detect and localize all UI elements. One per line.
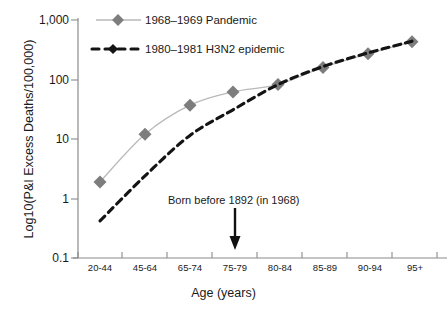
y-axis-ticks	[71, 20, 78, 258]
y-tick-label-100: 100	[19, 73, 69, 87]
legend-marker-pandemic	[96, 14, 141, 26]
legend-marker-h3n2	[92, 44, 141, 54]
series-pandemic-markers	[93, 35, 418, 188]
y-tick-label-0.1: 0.1	[19, 251, 69, 265]
legend-label-pandemic: 1968–1969 Pandemic	[145, 14, 257, 26]
y-tick-label-1: 1	[19, 192, 69, 206]
y-tick-label-1000: 1,000	[19, 13, 69, 27]
x-axis-ticks	[78, 252, 437, 258]
annotation-label: Born before 1892 (in 1968)	[168, 194, 299, 206]
annotation-arrow	[230, 208, 241, 250]
x-axis-title: Age (years)	[0, 286, 447, 300]
series-pandemic-line	[100, 42, 412, 182]
y-tick-label-10: 10	[19, 132, 69, 146]
legend-label-h3n2: 1980–1981 H3N2 epidemic	[145, 43, 284, 55]
x-tick-label-95plus: 95+	[385, 262, 445, 273]
chart-figure: Log10(P&I Excess Deaths/100,000) 1,000 1…	[0, 0, 447, 309]
